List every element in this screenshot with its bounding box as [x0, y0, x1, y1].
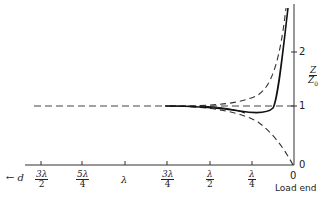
x-tick-3lambda-2: 3λ2: [35, 170, 48, 189]
upper-dashed-curve: [170, 8, 286, 106]
x-tick-3lambda-4: 3λ4: [161, 170, 174, 189]
x-tick-lambda-2: λ2: [206, 170, 214, 189]
x-tick-0: 0: [290, 171, 296, 181]
y-tick-2: 2: [299, 47, 305, 57]
y-tick-1: 1: [299, 101, 305, 111]
x-axis-direction-label: ← d: [6, 173, 24, 183]
arrow-left-icon: ←: [6, 172, 14, 183]
x-tick-5lambda-4: 5λ4: [76, 170, 89, 189]
y-tick-0: 0: [299, 160, 305, 170]
lower-dashed-curve: [170, 106, 293, 165]
solid-curve: [165, 8, 288, 113]
load-end-label: Load end: [275, 183, 316, 193]
x-tick-lambda-4: λ4: [248, 170, 256, 189]
y-axis-label: Z Z0: [308, 66, 318, 88]
x-tick-lambda: λ: [121, 175, 127, 185]
